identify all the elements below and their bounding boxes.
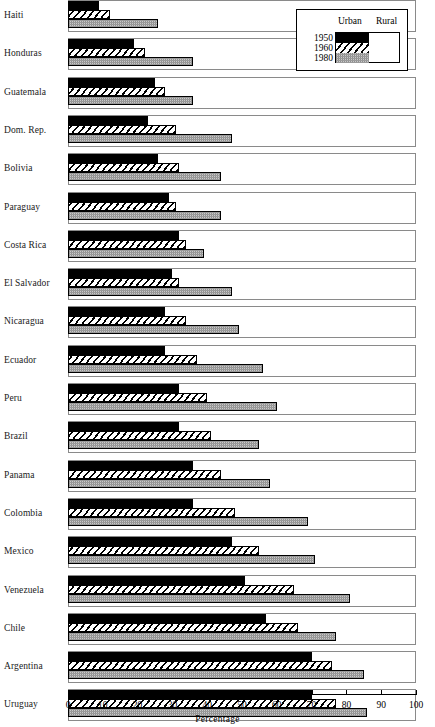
- bar-1980: [68, 517, 308, 526]
- country-label: Venezuela: [4, 585, 64, 596]
- bar-1960: [68, 355, 197, 364]
- axis-tick: [242, 690, 243, 695]
- bar-1960: [68, 48, 145, 57]
- bar-1950: [68, 1, 99, 10]
- country-label: Brazil: [4, 431, 64, 442]
- legend-header-urban: Urban: [338, 16, 362, 27]
- axis-title: Percentage: [0, 714, 435, 724]
- legend-header-rural: Rural: [376, 16, 397, 27]
- axis-tick: [68, 690, 69, 695]
- country-label: Ecuador: [4, 355, 64, 366]
- legend-swatch-1980: [336, 53, 369, 63]
- axis-tick-label: 100: [401, 700, 431, 711]
- bar-1960: [68, 470, 221, 479]
- country-label: Argentina: [4, 661, 64, 672]
- bar-1980: [68, 594, 350, 603]
- row-bars: [68, 307, 416, 337]
- bar-1950: [68, 307, 165, 316]
- row-bars: [68, 384, 416, 414]
- bar-1960: [68, 10, 110, 19]
- chart-row: Ecuador: [0, 344, 435, 382]
- bar-1950: [68, 346, 165, 355]
- chart-row: Panama: [0, 459, 435, 497]
- row-bars: [68, 652, 416, 682]
- country-label: Mexico: [4, 546, 64, 557]
- country-label: Dom. Rep.: [4, 125, 64, 136]
- bar-1980: [68, 440, 259, 449]
- row-bars: [68, 231, 416, 261]
- axis-tick-label: 30: [157, 700, 187, 711]
- bar-1980: [68, 402, 277, 411]
- bar-1950: [68, 78, 155, 87]
- chart-row: Costa Rica: [0, 229, 435, 267]
- bar-1980: [68, 19, 158, 28]
- axis-tick: [207, 690, 208, 695]
- bar-1980: [68, 325, 239, 334]
- row-bars: [68, 576, 416, 606]
- chart-row: Nicaragua: [0, 305, 435, 343]
- country-label: Guatemala: [4, 87, 64, 98]
- bar-1950: [68, 576, 245, 585]
- bar-1960: [68, 508, 235, 517]
- country-label: Nicaragua: [4, 316, 64, 327]
- legend-year-1980: 1980: [305, 53, 333, 63]
- legend-swatch-box: [335, 32, 400, 63]
- chart-row: Chile: [0, 612, 435, 650]
- bar-1960: [68, 546, 259, 555]
- legend-swatch-1950: [336, 33, 369, 43]
- bar-1950: [68, 154, 158, 163]
- row-bars: [68, 422, 416, 452]
- axis-tick: [138, 690, 139, 695]
- bar-1960: [68, 585, 294, 594]
- axis-tick: [346, 690, 347, 695]
- bar-1960: [68, 661, 332, 670]
- axis-tick-label: 0: [53, 700, 83, 711]
- bar-1960: [68, 87, 165, 96]
- country-label: Bolivia: [4, 163, 64, 174]
- chart-row: Guatemala: [0, 76, 435, 114]
- legend-year-1950: 1950: [305, 33, 333, 43]
- bar-1960: [68, 202, 176, 211]
- bar-1950: [68, 116, 148, 125]
- x-axis: 0102030405060708090100 Percentage: [0, 694, 435, 727]
- axis-tick-label: 10: [88, 700, 118, 711]
- bar-1980: [68, 555, 315, 564]
- urbanization-bar-chart: HaitiHondurasGuatemalaDom. Rep.BoliviaPa…: [0, 0, 435, 727]
- chart-legend: Urban Rural 1950 1960 1980: [296, 9, 408, 71]
- bar-1950: [68, 39, 134, 48]
- row-bars: [68, 346, 416, 376]
- bar-1980: [68, 211, 221, 220]
- bar-1980: [68, 249, 204, 258]
- bar-1950: [68, 231, 179, 240]
- bar-1980: [68, 287, 232, 296]
- bar-1950: [68, 384, 179, 393]
- country-label: Chile: [4, 623, 64, 634]
- chart-row: Mexico: [0, 535, 435, 573]
- bar-1980: [68, 57, 193, 66]
- bar-1950: [68, 499, 193, 508]
- bar-1960: [68, 623, 298, 632]
- axis-tick-label: 40: [192, 700, 222, 711]
- axis-tick-label: 20: [123, 700, 153, 711]
- chart-row: Brazil: [0, 420, 435, 458]
- bar-1960: [68, 240, 186, 249]
- country-label: Honduras: [4, 48, 64, 59]
- row-bars: [68, 537, 416, 567]
- bar-1980: [68, 134, 232, 143]
- chart-row: Paraguay: [0, 191, 435, 229]
- bar-1960: [68, 431, 211, 440]
- bar-1950: [68, 614, 266, 623]
- axis-tick: [172, 690, 173, 695]
- legend-swatch-1960: [336, 43, 369, 53]
- chart-row: Argentina: [0, 650, 435, 688]
- row-bars: [68, 614, 416, 644]
- axis-tick: [103, 690, 104, 695]
- bar-1980: [68, 670, 364, 679]
- chart-row: El Salvador: [0, 267, 435, 305]
- row-bars: [68, 116, 416, 146]
- country-label: Colombia: [4, 508, 64, 519]
- row-bars: [68, 499, 416, 529]
- axis-tick-label: 50: [227, 700, 257, 711]
- chart-row: Peru: [0, 382, 435, 420]
- axis-tick: [381, 690, 382, 695]
